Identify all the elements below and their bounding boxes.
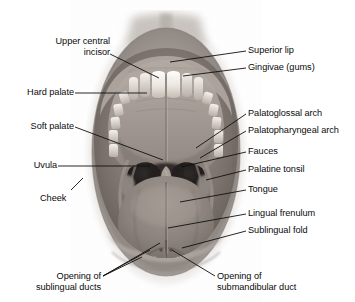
label-line: Hard palate [0, 87, 74, 98]
leader-superior-lip [170, 51, 246, 62]
leader-sublingual-fold [182, 231, 246, 248]
label-line: Palatoglossal arch [248, 108, 322, 119]
label-line: Tongue [248, 184, 278, 195]
label-line: Opening of [8, 271, 101, 282]
leader-lingual-frenulum [168, 214, 246, 228]
leader-cheek [71, 178, 83, 190]
label-gingivae[interactable]: Gingivae (gums) [248, 62, 315, 73]
label-palatine-tonsil[interactable]: Palatine tonsil [248, 164, 304, 175]
label-line: Uvula [0, 160, 57, 171]
leader-palatine-tonsil [206, 170, 246, 180]
label-superior-lip[interactable]: Superior lip [248, 45, 294, 56]
leader-upper-central-incisor [110, 54, 159, 78]
label-upper-central-incisor[interactable]: Upper central incisor [18, 36, 110, 57]
label-opening-sublingual-ducts[interactable]: Opening of sublingual ducts [8, 271, 101, 292]
leader-gingivae [183, 68, 246, 76]
leader-palatoglossal-arch [196, 114, 246, 148]
leader-sublingual-ducts-c [103, 257, 142, 276]
label-line: Opening of [217, 271, 296, 282]
label-line: Soft palate [0, 121, 74, 132]
label-line: Superior lip [248, 45, 294, 56]
label-uvula[interactable]: Uvula [0, 160, 57, 171]
label-line: Cheek [40, 193, 66, 204]
leader-submandibular-duct [172, 250, 215, 276]
label-soft-palate[interactable]: Soft palate [0, 121, 74, 132]
label-tongue[interactable]: Tongue [248, 184, 278, 195]
label-lingual-frenulum[interactable]: Lingual frenulum [248, 208, 315, 219]
leader-soft-palate [75, 127, 163, 160]
leader-sublingual-ducts-b [103, 243, 160, 276]
label-line: Gingivae (gums) [248, 62, 315, 73]
label-line: submandibular duct [217, 282, 296, 293]
label-line: Upper central [18, 36, 110, 47]
label-hard-palate[interactable]: Hard palate [0, 87, 74, 98]
label-palatoglossal-arch[interactable]: Palatoglossal arch [248, 108, 322, 119]
label-line: incisor [18, 47, 110, 58]
label-line: Fauces [248, 146, 278, 157]
label-line: Sublingual fold [248, 225, 308, 236]
label-line: sublingual ducts [8, 282, 101, 293]
label-line: Palatine tonsil [248, 164, 304, 175]
label-cheek[interactable]: Cheek [40, 193, 66, 204]
label-opening-submandibular-duct[interactable]: Opening of submandibular duct [217, 271, 296, 292]
label-fauces[interactable]: Fauces [248, 146, 278, 157]
leader-tongue [180, 190, 246, 202]
leader-fauces [181, 152, 246, 167]
oral-cavity-diagram: Upper central incisor Hard palate Soft p… [0, 0, 355, 302]
label-palatopharyngeal-arch[interactable]: Palatopharyngeal arch [248, 125, 339, 136]
label-line: Lingual frenulum [248, 208, 315, 219]
label-line: Palatopharyngeal arch [248, 125, 339, 136]
label-sublingual-fold[interactable]: Sublingual fold [248, 225, 308, 236]
